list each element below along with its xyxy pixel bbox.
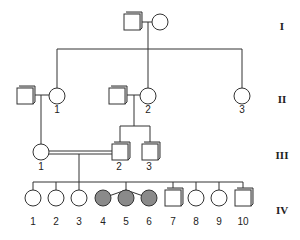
gen2-female-2 [140,88,156,104]
gen4-female-1 [25,190,41,206]
gen1-male [124,12,142,30]
gen1-female [152,14,168,30]
gen4-label: 8 [193,216,199,227]
gen4-label: 3 [76,216,82,227]
gen2-spouse-male-1 [17,86,35,104]
gen4-male-7 [165,188,183,206]
gen3-male-2 [112,142,130,160]
gen4-affected-female-5 [118,190,134,206]
generation-label-II: II [278,93,287,105]
gen3-label-3: 3 [146,161,152,172]
generation-label-IV: IV [276,204,288,216]
gen4-affected-female-6 [141,190,157,206]
gen4-label: 9 [216,216,222,227]
gen2-label-1: 1 [54,104,60,115]
gen2-female-1 [49,88,65,104]
gen4-label: 2 [53,216,59,227]
gen4-label: 5 [123,216,129,227]
gen4-female-8 [188,190,204,206]
gen4-affected-female-4 [95,190,111,206]
gen4-label: 1 [30,216,36,227]
gen3-label-1: 1 [38,161,44,172]
pedigree-diagram: 1 2 3 1 2 3 1 2 3 4 5 6 7 8 9 10 I II II… [0,0,300,240]
gen4-female-2 [48,190,64,206]
gen4-female-9 [211,190,227,206]
gen4-label: 4 [100,216,106,227]
gen3-label-2: 2 [116,161,122,172]
generation-label-I: I [280,20,284,32]
gen3-female-1 [33,144,49,160]
gen2-female-3 [234,88,250,104]
gen3-male-3 [142,142,160,160]
gen2-label-2: 2 [145,104,151,115]
gen4-label: 10 [237,216,249,227]
generation-label-III: III [276,149,289,161]
gen4-female-3 [71,190,87,206]
gen2-label-3: 3 [239,104,245,115]
gen4-label: 6 [146,216,152,227]
gen2-spouse-male-2 [109,86,127,104]
gen4-label: 7 [170,216,176,227]
gen4-male-10 [235,188,253,206]
